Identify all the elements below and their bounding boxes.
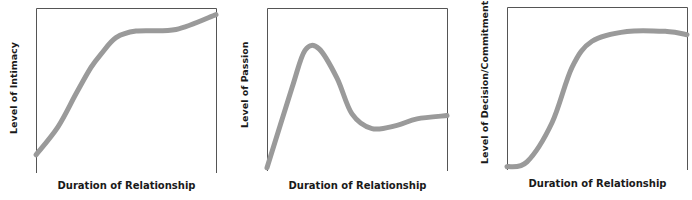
intimacy-x-axis-label: Duration of Relationship bbox=[36, 180, 217, 191]
passion-chart-panel: Level of Passion Duration of Relationshi… bbox=[230, 0, 460, 200]
passion-chart-svg bbox=[267, 8, 448, 171]
passion-y-axis-label: Level of Passion bbox=[239, 41, 250, 128]
commitment-y-axis-label: Level of Decision/Commitment bbox=[479, 1, 490, 164]
intimacy-plot-area bbox=[36, 8, 217, 173]
plot-frame bbox=[268, 9, 448, 172]
passion-plot-area bbox=[267, 8, 448, 171]
commitment-chart-svg bbox=[507, 7, 688, 170]
commitment-curve bbox=[507, 31, 687, 167]
intimacy-chart-svg bbox=[36, 8, 217, 173]
commitment-plot-area bbox=[507, 7, 688, 170]
intimacy-y-axis-label: Level of Intimacy bbox=[8, 42, 19, 134]
commitment-x-axis-label: Duration of Relationship bbox=[507, 178, 688, 189]
passion-curve bbox=[267, 45, 447, 167]
commitment-chart-panel: Level of Decision/Commitment Duration of… bbox=[460, 0, 692, 200]
passion-x-axis-label: Duration of Relationship bbox=[267, 180, 448, 191]
intimacy-chart-panel: Level of Intimacy Duration of Relationsh… bbox=[0, 0, 230, 200]
intimacy-curve bbox=[36, 15, 216, 155]
